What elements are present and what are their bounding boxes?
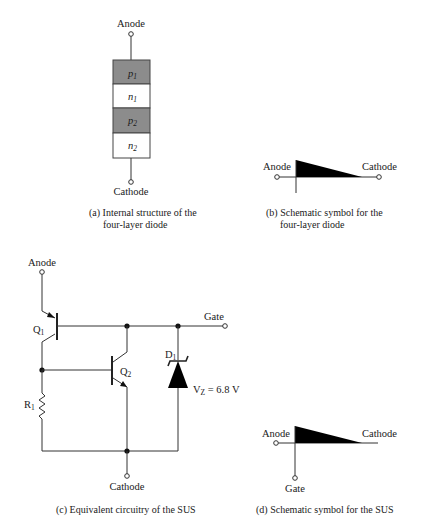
anode-label-d: Anode — [262, 428, 290, 439]
anode-terminal-d — [274, 441, 279, 446]
caption-b-line1: (b) Schematic symbol for the — [266, 207, 383, 219]
cathode-label-c: Cathode — [110, 481, 145, 492]
gate-terminal-d — [293, 476, 298, 481]
caption-d: (d) Schematic symbol for the SUS — [256, 504, 393, 516]
caption-c: (c) Equivalent circuitry of the SUS — [56, 504, 196, 516]
d1-triangle-icon — [168, 361, 188, 388]
cathode-terminal-c — [125, 474, 130, 479]
r1-zigzag — [39, 393, 45, 419]
q1-emitter-arrow-icon — [47, 312, 55, 318]
anode-label-a: Anode — [117, 18, 145, 29]
anode-terminal-b — [275, 175, 280, 180]
r1-label: R1 — [24, 399, 35, 412]
d1-label: D1 — [165, 349, 177, 362]
cathode-label-a: Cathode — [114, 186, 149, 197]
q2-label: Q2 — [120, 366, 132, 379]
anode-label-c: Anode — [28, 257, 56, 268]
cathode-label-b: Cathode — [362, 161, 397, 172]
transistor-q1: Q1 — [33, 311, 57, 342]
anode-label-b: Anode — [263, 161, 291, 172]
q2-emitter-arrow-icon — [120, 381, 127, 387]
sus-diagram-canvas: Anode p1 n1 p2 n2 Cathode (a) Internal s… — [0, 0, 424, 527]
caption-b-line2: four-layer diode — [280, 219, 345, 230]
q2-collector — [113, 352, 127, 362]
gate-label-c: Gate — [204, 311, 224, 322]
resistor-r1: R1 — [24, 370, 45, 451]
cathode-terminal-a — [129, 180, 134, 185]
panel-b-four-layer-symbol: Anode Cathode (b) Schematic symbol for t… — [263, 160, 397, 230]
panel-a-internal-structure: Anode p1 n1 p2 n2 Cathode (a) Internal s… — [89, 18, 197, 230]
cathode-label-d: Cathode — [362, 428, 397, 439]
four-layer-diode-symbol-b — [296, 160, 362, 177]
cathode-terminal-b — [377, 175, 382, 180]
sus-symbol-d — [295, 426, 362, 443]
zener-diode-d1: D1 VZ = 6.8 V — [165, 326, 240, 451]
transistor-q2: Q2 — [112, 326, 132, 387]
anode-terminal-a — [129, 32, 134, 37]
panel-d-sus-symbol: Anode Gate Cathode (d) Schematic symbol … — [256, 426, 397, 516]
gate-label-d: Gate — [285, 483, 305, 494]
gate-terminal-c — [223, 324, 228, 329]
anode-terminal-c — [40, 270, 45, 275]
vz-label: VZ = 6.8 V — [193, 384, 240, 397]
caption-a-line1: (a) Internal structure of the — [89, 207, 197, 219]
caption-a-line2: four-layer diode — [103, 219, 168, 230]
q1-label: Q1 — [33, 324, 45, 337]
panel-c-equivalent-circuit: Anode Q1 Gate Q2 — [24, 257, 240, 516]
